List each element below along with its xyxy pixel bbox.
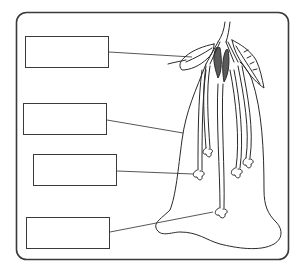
label-box-2[interactable] (23, 103, 107, 135)
ovule-5 (243, 158, 253, 168)
leader-line-1 (109, 52, 192, 57)
leader-lines (107, 52, 213, 232)
ovule-4 (231, 168, 242, 178)
ovule-1 (203, 148, 212, 157)
label-box-3[interactable] (33, 154, 117, 186)
pollen-tube-3b (222, 84, 224, 208)
leader-line-4 (110, 212, 213, 232)
pollen-tube-1b (208, 66, 210, 148)
pistil-diagram (0, 0, 294, 266)
ovule-3 (215, 208, 227, 218)
right-sepal-vein (236, 46, 260, 84)
pollen-tube-2a (198, 70, 202, 170)
pollen-tube-5b (242, 66, 251, 158)
stem-right-edge (226, 22, 230, 42)
pollen-tube-3a (217, 84, 220, 208)
ovule-2 (193, 170, 204, 180)
stem-left-edge (218, 22, 225, 42)
label-box-1[interactable] (25, 36, 109, 68)
pollen-tube-5a (238, 66, 247, 158)
leader-line-2 (107, 120, 183, 133)
label-box-4[interactable] (26, 217, 110, 249)
anther-right (223, 50, 229, 82)
leader-line-3 (117, 171, 193, 174)
left-sepal-tip (168, 60, 186, 64)
